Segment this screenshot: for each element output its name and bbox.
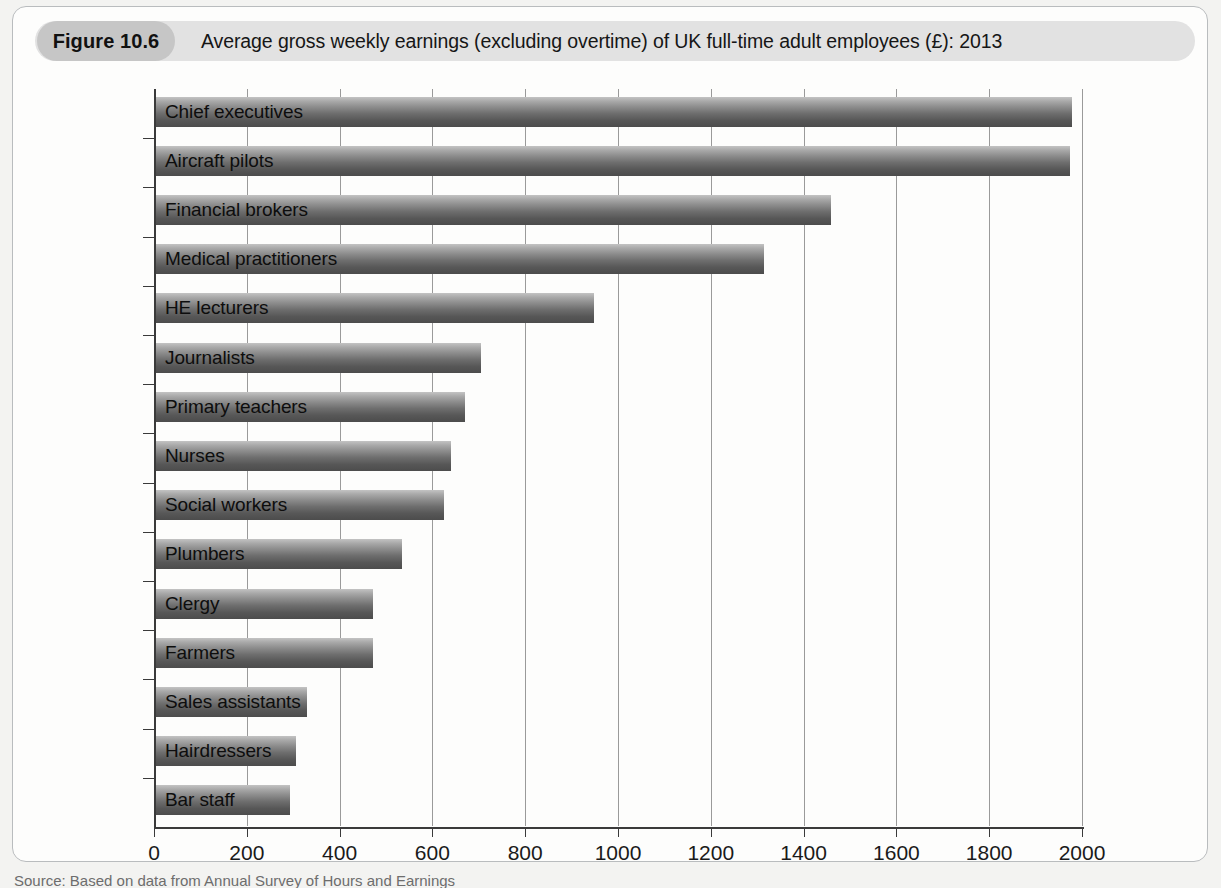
x-axis-tick — [1082, 827, 1083, 837]
source-note: Source: Based on data from Annual Survey… — [14, 872, 455, 888]
bar-category-label: Social workers — [156, 494, 287, 516]
y-axis-tick — [143, 581, 155, 582]
chart-bar: HE lecturers — [156, 293, 594, 323]
y-axis-tick — [143, 335, 155, 336]
y-axis-tick — [143, 483, 155, 484]
bar-category-label: Nurses — [156, 445, 225, 467]
bar-category-label: Medical practitioners — [156, 248, 337, 270]
x-axis-tick — [432, 827, 433, 837]
y-axis-tick — [143, 138, 155, 139]
x-axis-tick-label: 400 — [322, 841, 357, 865]
x-axis-tick — [618, 827, 619, 837]
figure-number-pill: Figure 10.6 — [37, 21, 175, 61]
bar-category-label: HE lecturers — [156, 297, 268, 319]
bar-category-label: Farmers — [156, 642, 235, 664]
x-axis-tick-label: 1000 — [595, 841, 642, 865]
chart-bar: Medical practitioners — [156, 244, 764, 274]
bar-category-label: Sales assistants — [156, 691, 301, 713]
gridline — [896, 89, 897, 826]
chart-bar: Primary teachers — [156, 392, 465, 422]
bar-category-label: Clergy — [156, 593, 219, 615]
x-axis-tick — [896, 827, 897, 837]
chart-bar: Sales assistants — [156, 687, 307, 717]
chart-plot-area: Chief executivesAircraft pilotsFinancial… — [35, 69, 1195, 857]
x-axis-tick-label: 1800 — [966, 841, 1013, 865]
y-axis-tick — [143, 630, 155, 631]
figure-frame: Figure 10.6 Average gross weekly earning… — [12, 6, 1208, 862]
bar-category-label: Aircraft pilots — [156, 150, 273, 172]
y-axis-tick — [143, 187, 155, 188]
y-axis-tick — [143, 532, 155, 533]
chart-bar: Clergy — [156, 589, 373, 619]
chart-bar: Journalists — [156, 343, 481, 373]
x-axis-tick-label: 200 — [229, 841, 264, 865]
chart-bar: Bar staff — [156, 785, 290, 815]
figure-caption-bar: Figure 10.6 Average gross weekly earning… — [35, 21, 1195, 61]
x-axis-tick — [804, 827, 805, 837]
chart-canvas: Chief executivesAircraft pilotsFinancial… — [35, 69, 1195, 857]
bar-category-label: Bar staff — [156, 789, 235, 811]
y-axis-tick — [143, 778, 155, 779]
gridline — [1082, 89, 1083, 826]
y-axis-tick — [143, 384, 155, 385]
chart-bar: Plumbers — [156, 539, 402, 569]
x-axis-tick-label: 800 — [508, 841, 543, 865]
chart-bar: Nurses — [156, 441, 451, 471]
chart-bar: Aircraft pilots — [156, 146, 1070, 176]
bar-category-label: Plumbers — [156, 543, 244, 565]
x-axis-tick — [525, 827, 526, 837]
gridline — [989, 89, 990, 826]
chart-bar: Social workers — [156, 490, 444, 520]
bar-category-label: Financial brokers — [156, 199, 308, 221]
chart-bar: Farmers — [156, 638, 373, 668]
x-axis-tick — [989, 827, 990, 837]
x-axis-tick — [247, 827, 248, 837]
y-axis-tick — [143, 286, 155, 287]
x-axis-tick — [340, 827, 341, 837]
x-axis-tick-label: 2000 — [1059, 841, 1106, 865]
y-axis-tick — [143, 679, 155, 680]
x-axis-tick — [711, 827, 712, 837]
bar-category-label: Journalists — [156, 347, 255, 369]
y-axis-tick — [143, 433, 155, 434]
x-axis-tick-label: 1600 — [873, 841, 920, 865]
figure-caption-text: Average gross weekly earnings (excluding… — [201, 30, 1002, 53]
x-axis-line — [154, 827, 1084, 829]
y-axis-tick — [143, 729, 155, 730]
chart-bar: Hairdressers — [156, 736, 296, 766]
bar-category-label: Primary teachers — [156, 396, 307, 418]
chart-bar: Chief executives — [156, 97, 1072, 127]
bar-category-label: Hairdressers — [156, 740, 272, 762]
x-axis-tick-label: 600 — [415, 841, 450, 865]
y-axis-tick — [143, 237, 155, 238]
x-axis-tick-label: 0 — [148, 841, 160, 865]
x-axis-tick-label: 1200 — [687, 841, 734, 865]
x-axis-tick-label: 1400 — [780, 841, 827, 865]
bar-category-label: Chief executives — [156, 101, 303, 123]
chart-bar: Financial brokers — [156, 195, 831, 225]
x-axis-tick — [154, 827, 155, 837]
